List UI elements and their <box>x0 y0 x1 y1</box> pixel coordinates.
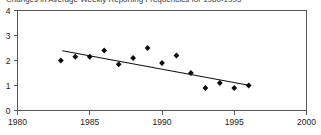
y-tick-label: 3 <box>6 31 11 41</box>
data-point <box>217 80 223 86</box>
chart-figure: Changes in Average Weekly Reporting Freq… <box>0 0 321 135</box>
y-axis-tick-labels: 01234 <box>6 6 11 116</box>
x-tick-label: 1995 <box>225 117 244 127</box>
y-tick-label: 1 <box>6 81 11 91</box>
data-point <box>246 83 252 89</box>
x-tick-label: 2000 <box>297 117 316 127</box>
x-axis-ticks <box>18 111 307 115</box>
data-point <box>202 85 208 91</box>
y-tick-label: 2 <box>6 56 11 66</box>
data-point <box>87 54 93 60</box>
data-point <box>72 54 78 60</box>
x-axis-tick-labels: 19801985199019952000 <box>8 117 316 127</box>
x-tick-label: 1985 <box>80 117 99 127</box>
data-point <box>101 48 107 54</box>
data-point <box>145 45 151 51</box>
data-point <box>58 58 64 64</box>
data-point <box>130 55 136 61</box>
scatter-plot: 01234 19801985199019952000 <box>0 0 321 135</box>
data-point <box>174 53 180 59</box>
x-tick-label: 1980 <box>8 117 27 127</box>
y-tick-label: 4 <box>6 6 11 16</box>
data-point <box>116 61 122 67</box>
data-point <box>231 85 237 91</box>
x-tick-label: 1990 <box>153 117 172 127</box>
y-axis-ticks <box>14 11 18 111</box>
data-point <box>159 60 165 66</box>
y-tick-label: 0 <box>6 106 11 116</box>
